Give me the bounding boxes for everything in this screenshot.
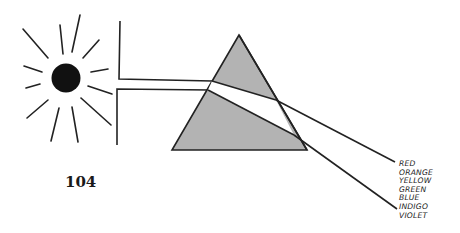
page-number: 104 [65, 173, 96, 191]
sun [23, 15, 112, 142]
spectrum-labels: RED ORANGE YELLOW GREEN BLUE INDIGO VIOL… [399, 160, 433, 220]
label-violet: VIOLET [399, 212, 433, 221]
sun-disc [52, 64, 81, 93]
prism-diagram [0, 0, 460, 233]
dispersed-beam [276, 100, 397, 209]
prism [172, 35, 307, 150]
